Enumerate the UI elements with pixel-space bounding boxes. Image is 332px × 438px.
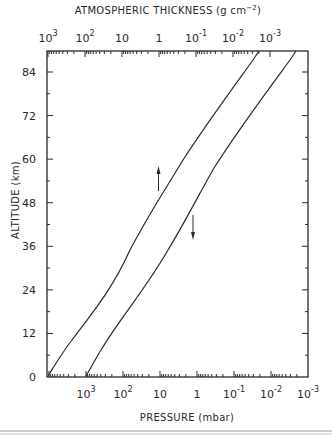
top-axis-ticks <box>48 51 270 57</box>
top-tick-label: 10-3 <box>259 29 281 45</box>
bottom-tick-label: 10 <box>153 388 167 401</box>
y-axis-ticks <box>47 72 308 355</box>
top-tick-label: 103 <box>38 29 57 45</box>
y-tick-label: 12 <box>22 327 36 340</box>
bottom-tick-label: 1 <box>194 388 201 401</box>
y-tick-label: 84 <box>22 66 36 79</box>
bottom-tick-label: 102 <box>113 385 132 401</box>
down-arrow-icon <box>191 215 195 240</box>
y-tick-label: 0 <box>29 371 36 384</box>
top-tick-label: 10-1 <box>185 29 207 45</box>
bottom-tick-label: 103 <box>76 385 95 401</box>
bottom-tick-label: 10-3 <box>297 385 319 401</box>
bottom-axis-tick-labels: 10310210110-110-210-3 <box>76 385 319 401</box>
pressure-curve <box>86 51 296 376</box>
y-tick-label: 72 <box>22 110 36 123</box>
y-tick-label: 24 <box>22 284 36 297</box>
bottom-tick-label: 10-1 <box>223 385 245 401</box>
y-axis-tick-labels: 012243648607284 <box>22 66 36 384</box>
chart-canvas: ATMOSPHERIC THICKNESS (g cm−2) 103102101… <box>0 0 332 438</box>
top-tick-label: 102 <box>75 29 94 45</box>
top-tick-label: 10 <box>115 32 129 45</box>
y-axis-title: ALTITUDE (km) <box>10 161 21 239</box>
thickness-curve <box>48 51 259 376</box>
bottom-tick-label: 10-2 <box>260 385 282 401</box>
plot-frame <box>47 51 308 377</box>
x-axis-title: PRESSURE (mbar) <box>140 412 234 423</box>
top-axis-title: ATMOSPHERIC THICKNESS (g cm−2) <box>75 4 262 16</box>
top-tick-label: 10-2 <box>222 29 244 45</box>
top-axis-tick-labels: 10310210110-110-210-3 <box>38 29 281 45</box>
y-tick-label: 48 <box>22 197 36 210</box>
up-arrow-icon <box>157 166 161 191</box>
y-tick-label: 60 <box>22 153 36 166</box>
y-tick-label: 36 <box>22 240 36 253</box>
top-tick-label: 1 <box>156 32 163 45</box>
